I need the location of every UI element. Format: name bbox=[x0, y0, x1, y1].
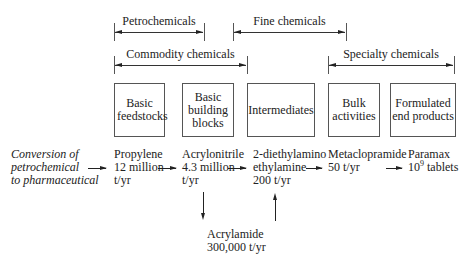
range-line bbox=[234, 32, 345, 33]
range-line bbox=[115, 32, 203, 33]
product-unit: t/yr bbox=[182, 174, 199, 187]
arrow-left-icon bbox=[115, 63, 122, 67]
range-line bbox=[329, 65, 453, 66]
arrow-right-icon bbox=[446, 63, 453, 67]
arrow-left-icon bbox=[329, 63, 336, 67]
stage-box-formulated-end-products: Formulated end products bbox=[390, 83, 456, 137]
arrow-right-icon bbox=[196, 30, 203, 34]
arrow-right-icon bbox=[170, 166, 177, 170]
range-line bbox=[115, 65, 246, 66]
range-label: Specialty chemicals bbox=[328, 47, 454, 62]
stage-box-basic-building-blocks: Basic building blocks bbox=[182, 83, 234, 137]
amount-suffix: tablets bbox=[424, 160, 458, 174]
arrow-right-icon bbox=[338, 30, 345, 34]
arrow-right-icon bbox=[239, 63, 246, 67]
range-label: Commodity chemicals bbox=[114, 47, 247, 62]
range-label: Petrochemicals bbox=[114, 14, 204, 29]
stage-box-intermediates: Intermediates bbox=[247, 83, 315, 137]
stage-label: Basic feedstocks bbox=[117, 97, 162, 123]
range-tick bbox=[454, 56, 455, 74]
side-product-amount: 300,000 t/yr bbox=[207, 241, 266, 254]
range-label: Fine chemicals bbox=[233, 14, 346, 29]
stage-label: Intermediates bbox=[248, 104, 313, 117]
product-amount: 109 tablets bbox=[408, 161, 458, 174]
range-tick bbox=[247, 56, 248, 74]
arrow-right-icon bbox=[316, 166, 323, 170]
range-tick bbox=[346, 23, 347, 41]
range-tick bbox=[204, 23, 205, 41]
conversion-line-3: to pharmaceutical bbox=[11, 174, 99, 187]
product-unit: t/yr bbox=[114, 174, 131, 187]
arrow-down-icon bbox=[201, 213, 205, 220]
product-amount: 50 t/yr bbox=[328, 161, 360, 174]
product-unit: 200 t/yr bbox=[253, 174, 291, 187]
stage-label: Formulated end products bbox=[392, 97, 454, 123]
amount-base: 10 bbox=[408, 160, 420, 174]
arrow-left-icon bbox=[234, 30, 241, 34]
up-arrow bbox=[275, 197, 276, 221]
arrow-right-icon bbox=[100, 166, 107, 170]
stage-box-bulk-activities: Bulk activities bbox=[328, 83, 380, 137]
stage-label: Basic building blocks bbox=[186, 91, 230, 130]
arrow-right-icon bbox=[396, 166, 403, 170]
stage-label: Bulk activities bbox=[331, 97, 377, 123]
arrow-right-icon bbox=[240, 166, 247, 170]
arrow-up-icon bbox=[273, 193, 277, 200]
stage-box-basic-feedstocks: Basic feedstocks bbox=[114, 83, 165, 137]
arrow-left-icon bbox=[115, 30, 122, 34]
